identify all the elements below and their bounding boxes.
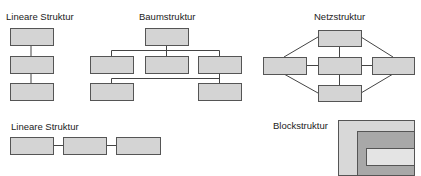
block-diagram — [339, 121, 415, 176]
network-diagram — [264, 31, 415, 102]
node — [91, 57, 134, 74]
node — [199, 57, 242, 74]
node — [11, 138, 54, 155]
inner-block — [367, 149, 415, 166]
node — [199, 84, 242, 101]
node — [319, 58, 362, 75]
node — [11, 29, 54, 46]
root-node — [146, 29, 189, 46]
node — [319, 86, 362, 102]
node — [264, 58, 307, 75]
linear-horizontal-diagram — [11, 138, 161, 155]
node — [11, 84, 54, 101]
node — [11, 57, 54, 74]
node — [117, 138, 161, 155]
node — [64, 138, 107, 155]
tree-diagram — [91, 29, 242, 101]
node — [146, 57, 189, 74]
node — [319, 31, 362, 47]
node — [91, 84, 134, 101]
linear-vertical-diagram — [11, 29, 54, 101]
node — [373, 58, 415, 75]
structures-diagram — [0, 0, 421, 176]
